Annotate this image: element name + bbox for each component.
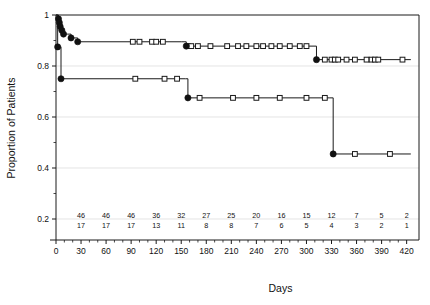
at-risk-value: 8 [229,221,233,230]
at-risk-value: 6 [279,221,283,230]
at-risk-value: 2 [405,211,409,220]
censor-marker [269,44,274,49]
censor-marker [376,57,381,62]
y-tick-label: 0.2 [37,214,49,224]
censor-marker [254,44,259,49]
censor-marker [133,76,138,81]
kaplan-meier-figure: 0306090120150180210240270300330360390420… [0,0,430,305]
y-axis-ticks: 0.20.40.60.81 [37,10,56,224]
at-risk-value: 46 [127,211,135,220]
survival-curve-2 [56,15,411,154]
censor-marker [352,152,357,157]
survival-plot: 0306090120150180210240270300330360390420… [0,0,430,305]
event-marker [60,31,66,37]
censor-marker [322,57,327,62]
curve-markers [55,16,405,157]
x-tick-label: 0 [54,246,59,256]
x-axis-ticks: 0306090120150180210240270300330360390420 [54,240,414,256]
censor-marker [277,95,282,100]
at-risk-value: 5 [380,211,384,220]
at-risk-value: 2 [380,221,384,230]
event-marker [185,95,191,101]
at-risk-table: 4646463632272520161512752171717131188765… [77,211,409,230]
x-tick-label: 240 [249,246,263,256]
x-tick-label: 210 [224,246,238,256]
censor-marker [244,44,249,49]
x-tick-label: 30 [76,246,86,256]
at-risk-value: 12 [328,211,336,220]
at-risk-value: 17 [127,221,135,230]
x-tick-label: 420 [400,246,414,256]
event-marker [313,57,319,63]
at-risk-value: 15 [302,211,310,220]
x-tick-label: 300 [299,246,313,256]
censor-marker [130,39,135,44]
y-tick-label: 1 [44,10,49,20]
at-risk-value: 7 [355,211,359,220]
x-tick-label: 120 [149,246,163,256]
censor-marker [297,44,302,49]
at-risk-value: 16 [277,211,285,220]
x-tick-label: 390 [375,246,389,256]
at-risk-value: 36 [152,211,160,220]
event-marker [68,35,74,41]
censor-marker [225,44,230,49]
censor-marker [344,57,349,62]
at-risk-value: 27 [202,211,210,220]
at-risk-value: 25 [227,211,235,220]
at-risk-value: 4 [330,221,334,230]
censor-marker [162,76,167,81]
at-risk-value: 5 [304,221,308,230]
censor-marker [287,44,292,49]
plot-frame [50,15,419,240]
censor-marker [196,44,201,49]
censor-marker [352,57,357,62]
x-tick-label: 270 [274,246,288,256]
x-tick-label: 60 [101,246,111,256]
censor-marker [322,95,327,100]
at-risk-value: 8 [204,221,208,230]
censor-marker [336,57,341,62]
censor-marker [254,95,259,100]
y-tick-label: 0.8 [37,61,49,71]
x-tick-label: 150 [174,246,188,256]
censor-marker [160,39,165,44]
censor-marker [137,39,142,44]
y-tick-label: 0.4 [37,163,49,173]
y-tick-label: 0.6 [37,112,49,122]
censor-marker [304,95,309,100]
y-axis-title: Proportion of Patients [5,78,17,179]
survival-curve-1 [56,15,411,60]
at-risk-value: 11 [177,221,184,230]
x-tick-label: 360 [349,246,363,256]
at-risk-value: 17 [77,221,85,230]
axis-titles: DaysProportion of Patients [5,78,292,294]
censor-marker [197,95,202,100]
censor-marker [175,76,180,81]
event-marker [55,44,61,50]
at-risk-value: 7 [254,221,258,230]
censor-marker [231,95,236,100]
x-tick-label: 180 [199,246,213,256]
grid-lines [56,66,419,219]
at-risk-value: 3 [355,221,359,230]
censor-marker [236,44,241,49]
at-risk-value: 1 [405,221,409,230]
censor-marker [400,57,405,62]
event-marker [330,151,336,157]
censor-marker [208,44,213,49]
censor-marker [277,44,282,49]
censor-marker [388,152,393,157]
event-marker [58,76,64,82]
at-risk-value: 13 [152,221,160,230]
censor-marker [261,44,266,49]
at-risk-value: 32 [177,211,185,220]
at-risk-value: 46 [77,211,85,220]
censor-marker [364,57,369,62]
censor-marker [154,39,159,44]
event-marker [183,43,189,49]
at-risk-value: 46 [102,211,110,220]
event-marker [75,39,81,45]
at-risk-value: 20 [252,211,260,220]
censor-marker [304,44,309,49]
